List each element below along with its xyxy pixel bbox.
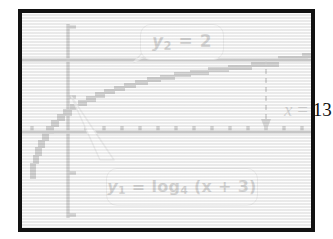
y2-subscript: 2	[164, 39, 173, 53]
y1-argument: (x + 3)	[194, 177, 257, 196]
y1-variable: y	[107, 177, 118, 196]
y2-callout-text: y2 = 2	[152, 31, 212, 53]
calculator-screen-frame: x = 13 y2 = 2 y1 = log4 (x + 3)	[18, 9, 315, 232]
y1-subscript: 1	[118, 184, 126, 197]
y1-callout-tail	[71, 96, 114, 160]
y1-callout-bubble[interactable]: y1 = log4 (x + 3)	[106, 168, 258, 206]
y1-callout-text: y1 = log4 (x + 3)	[107, 177, 256, 197]
y1-log-base: 4	[180, 184, 188, 197]
y2-callout-bubble[interactable]: y2 = 2	[140, 24, 224, 60]
y2-variable: y	[152, 31, 164, 51]
log-graph-figure: x = 13 y2 = 2 y1 = log4 (x + 3)	[0, 0, 333, 239]
plot-area: x = 13 y2 = 2 y1 = log4 (x + 3)	[22, 13, 311, 228]
y1-equals: =	[132, 177, 146, 196]
y1-function: log	[151, 177, 180, 196]
y2-rhs: 2	[200, 31, 212, 51]
x-marker-arrowhead	[261, 119, 271, 132]
log-curve	[30, 53, 311, 179]
x-value-rest: = 13	[292, 99, 331, 120]
x-value-annotation: x = 13	[284, 99, 332, 121]
y2-equals: =	[179, 31, 194, 51]
